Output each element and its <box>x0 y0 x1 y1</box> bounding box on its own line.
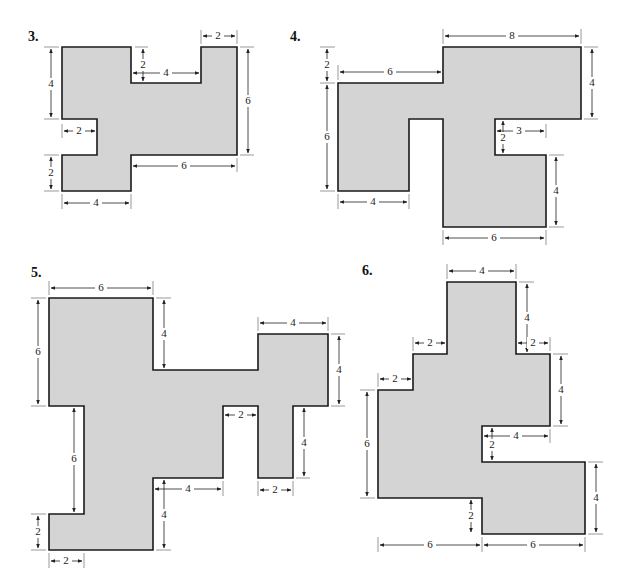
problem-number: 5. <box>31 265 42 280</box>
problem-number: 3. <box>28 29 39 44</box>
dimension-label: 4 <box>513 429 519 441</box>
dimension-foot-width: 2 <box>49 553 84 568</box>
dimension-left-upper-height: 4 <box>44 47 59 119</box>
dimension-label: 4 <box>553 184 559 196</box>
dimension-label: 4 <box>336 363 342 375</box>
dimension-label: 6 <box>364 437 370 449</box>
shape-6 <box>378 282 585 534</box>
dimension-label: 3 <box>516 124 522 136</box>
dimension-step1-width: 2 <box>413 336 445 351</box>
dimension-label: 4 <box>163 66 169 78</box>
problem-6: 6. 4 4 2 2 2 <box>360 263 603 552</box>
figure-canvas: 3. 2 2 4 6 4 <box>0 0 627 585</box>
problem-3: 3. 2 2 4 6 4 <box>28 29 254 209</box>
dimension-top-notch-depth: 4 <box>156 298 171 368</box>
dimension-gap-width: 2 <box>225 408 256 421</box>
dimension-left-notch-width: 2 <box>62 124 95 138</box>
dimension-label: 2 <box>48 166 54 178</box>
dimension-bottom-left-width: 6 <box>378 537 482 552</box>
shape-5 <box>49 298 328 550</box>
dimension-bottom-right-width: 6 <box>484 537 585 552</box>
dimension-label: 2 <box>63 554 69 566</box>
dimension-label: 6 <box>427 538 433 550</box>
dimension-bottom-step-height: 2 <box>465 500 477 532</box>
dimension-notch-height: 2 <box>486 428 498 460</box>
dimension-step-height: 2 <box>320 47 335 83</box>
dimension-label: 2 <box>215 29 221 41</box>
dimension-label: 6 <box>245 94 251 106</box>
dimension-left-height: 6 <box>320 85 335 191</box>
dimension-label: 4 <box>370 195 376 207</box>
dimension-bottom-left-width: 4 <box>338 194 409 209</box>
dimension-label: 6 <box>530 538 536 550</box>
dimension-top-width: 4 <box>447 264 516 279</box>
dimension-label: 4 <box>558 383 564 395</box>
dimension-right-step-width: 2 <box>518 336 550 351</box>
dimension-right-leg-width: 2 <box>258 481 293 496</box>
dimension-right-upper-height: 4 <box>584 47 598 119</box>
dimension-right-lower-height: 4 <box>588 462 603 534</box>
dimension-label: 2 <box>468 509 474 521</box>
problem-4: 4. 8 2 6 4 6 <box>290 29 598 245</box>
dimension-label: 4 <box>479 264 485 276</box>
dimension-label: 2 <box>35 525 41 537</box>
dimension-notch-height: 2 <box>497 121 509 153</box>
dimension-right-leg-height: 4 <box>296 408 310 478</box>
dimension-label: 6 <box>98 281 104 293</box>
dimension-label: 4 <box>593 491 599 503</box>
dimension-label: 4 <box>290 316 296 328</box>
dimension-label: 8 <box>509 29 515 41</box>
dimension-left-upper-height: 6 <box>31 298 46 406</box>
dimension-label: 2 <box>530 336 536 348</box>
dimension-top-width: 8 <box>443 29 581 44</box>
dimension-foot-height: 2 <box>31 514 46 550</box>
dimension-notch-depth: 2 <box>135 47 149 81</box>
dimension-bottom-right-width: 6 <box>443 230 546 245</box>
dimension-right-height: 6 <box>240 47 254 155</box>
dimension-label: 6 <box>387 65 393 77</box>
dimension-right-mid-height: 4 <box>553 354 568 426</box>
dimension-label: 6 <box>491 231 497 243</box>
dimension-top-right-width: 2 <box>201 29 237 44</box>
dimension-mid-bottom-width: 4 <box>155 481 223 496</box>
problem-number: 6. <box>362 263 373 278</box>
dimension-label: 2 <box>392 372 398 384</box>
shape-3 <box>62 47 237 191</box>
dimension-label: 4 <box>524 311 530 323</box>
dimension-right-lower-height: 4 <box>549 155 564 227</box>
dimension-lower-height: 4 <box>156 480 171 550</box>
dimension-label: 2 <box>76 124 82 136</box>
dimension-step2-width: 2 <box>378 372 411 387</box>
dimension-label: 2 <box>324 58 330 70</box>
dimension-right-top-width: 4 <box>258 316 328 331</box>
dimension-bottom-width: 4 <box>62 194 131 209</box>
dimension-label: 4 <box>589 76 595 88</box>
dimension-label: 4 <box>93 196 99 208</box>
dimension-left-height: 6 <box>360 390 375 498</box>
dimension-label: 2 <box>489 438 495 450</box>
dimension-label: 6 <box>71 452 77 464</box>
dimension-label: 2 <box>140 58 146 70</box>
dimension-left-mid-height: 6 <box>68 408 80 512</box>
dimension-label: 4 <box>301 436 307 448</box>
dimension-label: 2 <box>500 131 506 143</box>
dimension-lower-right-width: 6 <box>133 158 237 172</box>
dimension-label: 2 <box>238 408 244 420</box>
dimension-label: 6 <box>324 130 330 142</box>
dimension-label: 4 <box>185 482 191 494</box>
dimension-label: 4 <box>161 327 167 339</box>
dimension-top-width: 6 <box>49 281 153 295</box>
dimension-right-block-height: 4 <box>331 334 345 406</box>
problem-5: 5. 6 6 4 4 4 <box>31 265 345 568</box>
dimension-label: 6 <box>181 159 187 171</box>
dimension-label: 4 <box>161 508 167 520</box>
dimension-label: 6 <box>35 345 41 357</box>
dimension-left-top-width: 6 <box>338 65 441 80</box>
dimension-label: 4 <box>48 77 54 89</box>
dimension-left-lower-height: 2 <box>44 155 59 191</box>
dimension-label: 2 <box>272 483 278 495</box>
problem-number: 4. <box>290 29 301 44</box>
dimension-label: 2 <box>427 336 433 348</box>
